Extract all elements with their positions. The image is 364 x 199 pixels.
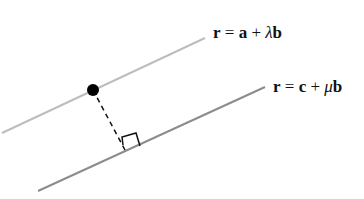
diagram-canvas: r = a + λb r = c + μb: [0, 0, 364, 199]
line1-equation-label: r = a + λb: [213, 24, 282, 41]
right-angle-marker: [122, 133, 140, 146]
point-marker: [87, 84, 99, 96]
line-r-equals-c-plus-mu-b: [38, 87, 265, 191]
perpendicular-dashed-line: [93, 90, 125, 150]
line2-equation-label: r = c + μb: [273, 78, 342, 95]
line-r-equals-a-plus-lambda-b: [2, 38, 205, 133]
diagram-svg: [0, 0, 364, 199]
